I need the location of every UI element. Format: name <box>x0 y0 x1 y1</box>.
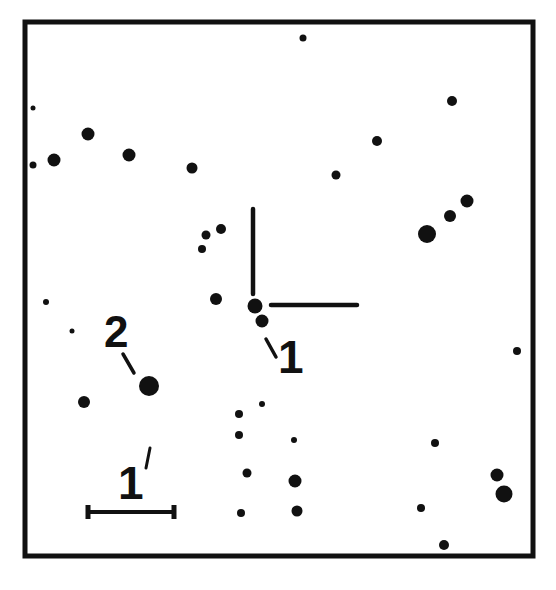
star <box>447 96 457 106</box>
star <box>496 486 513 503</box>
star <box>187 163 198 174</box>
star <box>82 128 95 141</box>
chart-background <box>0 0 556 590</box>
star <box>48 154 61 167</box>
star <box>461 195 474 208</box>
star <box>300 35 307 42</box>
star <box>237 509 245 517</box>
star <box>198 245 206 253</box>
star <box>431 439 439 447</box>
star <box>78 396 90 408</box>
finding-chart: 1 2 1 <box>0 0 556 590</box>
star <box>439 540 449 550</box>
star <box>513 347 521 355</box>
star <box>491 469 504 482</box>
star <box>235 410 243 418</box>
star <box>210 293 222 305</box>
comparison-label-text: 2 <box>104 307 128 356</box>
star <box>418 225 436 243</box>
star <box>202 231 211 240</box>
star <box>332 171 341 180</box>
star <box>31 106 36 111</box>
star <box>444 210 456 222</box>
star <box>291 437 297 443</box>
star <box>30 162 37 169</box>
star <box>139 376 159 396</box>
star <box>292 506 303 517</box>
star <box>70 329 75 334</box>
star <box>243 469 252 478</box>
star <box>216 224 226 234</box>
star <box>43 299 49 305</box>
star <box>235 431 243 439</box>
scale-bar-value: 1 <box>118 457 144 509</box>
star <box>256 315 269 328</box>
star <box>123 149 136 162</box>
target-label-text: 1 <box>278 331 304 383</box>
star <box>259 401 265 407</box>
star <box>372 136 382 146</box>
star <box>417 504 425 512</box>
star <box>248 299 263 314</box>
star <box>289 475 302 488</box>
